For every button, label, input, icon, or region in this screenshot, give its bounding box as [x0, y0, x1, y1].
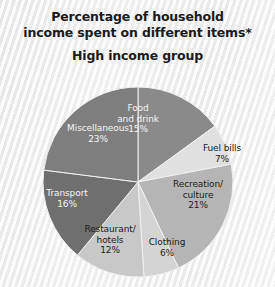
- slice-label-name2: culture: [160, 190, 236, 201]
- slice-label-value: 23%: [56, 134, 140, 145]
- slice-label-value: 16%: [31, 199, 103, 210]
- slice-label-name: Food: [103, 103, 173, 114]
- slice-label-name2: hotels: [74, 235, 146, 246]
- slice-label-miscellaneous: Miscellaneous 23%: [56, 123, 140, 144]
- slice-label-name: Transport: [31, 188, 103, 199]
- slice-label-recreation-culture: Recreation/ culture 21%: [160, 179, 236, 211]
- pie-chart-figure: Percentage of household income spent on …: [0, 0, 275, 287]
- slice-label-transport: Transport 16%: [31, 188, 103, 209]
- slice-label-name: Restaurant/: [74, 224, 146, 235]
- slice-label-value: 7%: [185, 154, 259, 165]
- slice-label-value: 21%: [160, 200, 236, 211]
- slice-label-name: Miscellaneous: [56, 123, 140, 134]
- slice-label-value: 12%: [74, 245, 146, 256]
- slice-label-name: Recreation/: [160, 179, 236, 190]
- slice-label-name: Fuel bills: [185, 143, 259, 154]
- pie-plot-area: Food and drink 15% Fuel bills 7% Recreat…: [0, 0, 275, 287]
- slice-label-fuel-bills: Fuel bills 7%: [185, 143, 259, 164]
- slice-label-restaurant-hotels: Restaurant/ hotels 12%: [74, 224, 146, 256]
